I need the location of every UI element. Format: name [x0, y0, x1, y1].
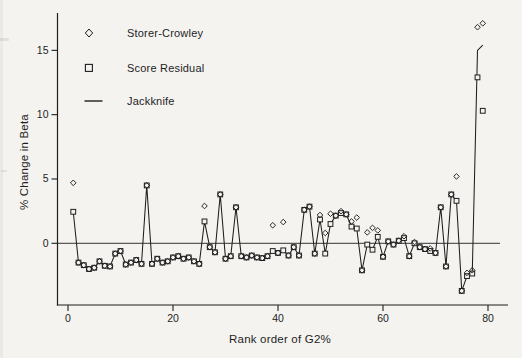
score-residual-point [339, 211, 344, 216]
y-tick-label: 10 [37, 108, 49, 120]
storer-crowley-point [454, 174, 460, 180]
legend-label: Score Residual [127, 62, 204, 74]
square-marker-icon [84, 63, 104, 73]
legend-item-storer-crowley: Storer-Crowley [84, 26, 203, 40]
x-tick-label: 40 [272, 312, 284, 324]
storer-crowley-point [364, 230, 370, 236]
score-residual-point [281, 248, 286, 253]
score-residual-point [270, 249, 275, 254]
x-tick-label: 60 [377, 312, 389, 324]
storer-crowley-point [375, 228, 381, 234]
storer-crowley-point [70, 180, 76, 186]
legend-label: Storer-Crowley [127, 27, 203, 39]
legend-label: Jackknife [127, 95, 175, 107]
line-marker-icon [84, 99, 104, 103]
storer-crowley-point [270, 222, 276, 228]
storer-crowley-point [202, 203, 208, 209]
y-axis-label: % Change in Beta [18, 114, 30, 210]
chart-svg: 051015020406080 [0, 0, 522, 358]
score-residual-point [370, 247, 375, 252]
x-axis-label: Rank order of G2% [229, 333, 331, 345]
score-residual-point [402, 236, 407, 241]
x-tick-label: 20 [167, 312, 179, 324]
storer-crowley-point [370, 225, 376, 231]
score-residual-point [323, 251, 328, 256]
x-tick-label: 80 [482, 312, 494, 324]
legend-item-jackknife: Jackknife [84, 94, 175, 108]
score-residual-point [202, 219, 207, 224]
diamond-marker-icon [84, 28, 104, 38]
score-residual-point [71, 209, 76, 214]
score-residual-point [454, 198, 459, 203]
x-tick-label: 0 [65, 312, 71, 324]
score-residual-point [328, 222, 333, 227]
storer-crowley-point [475, 24, 481, 30]
storer-crowley-point [280, 219, 286, 225]
score-residual-point [480, 108, 485, 113]
figure: 051015020406080 % Change in Beta Rank or… [0, 0, 522, 358]
y-tick-label: 0 [43, 237, 49, 249]
score-residual-point [354, 226, 359, 231]
score-residual-point [375, 234, 380, 239]
score-residual-point [475, 75, 480, 80]
storer-crowley-point [480, 21, 486, 27]
y-tick-label: 5 [43, 172, 49, 184]
storer-crowley-point [354, 215, 360, 221]
legend-item-score-residual: Score Residual [84, 61, 204, 75]
y-tick-label: 15 [37, 44, 49, 56]
score-residual-point [365, 242, 370, 247]
storer-crowley-point [322, 230, 328, 236]
